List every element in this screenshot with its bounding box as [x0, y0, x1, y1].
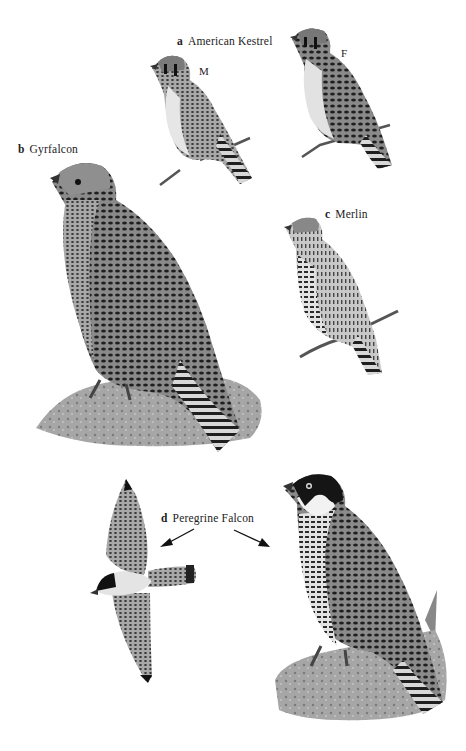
american-kestrel-female-illustration: [280, 25, 400, 175]
gyrfalcon-illustration: [30, 160, 270, 460]
species-letter: a: [177, 35, 183, 47]
species-label-gyrfalcon: bGyrfalcon: [18, 143, 78, 155]
species-label-american-kestrel: aAmerican Kestrel: [177, 35, 273, 47]
peregrine-falcon-flight-illustration: [88, 475, 203, 685]
merlin-illustration: [280, 215, 405, 380]
species-letter: b: [18, 143, 25, 155]
arrow-to-perched-peregrine-icon: [232, 528, 272, 550]
species-name: Gyrfalcon: [30, 143, 78, 155]
species-name: American Kestrel: [188, 35, 273, 47]
peregrine-falcon-perched-illustration: [275, 470, 455, 725]
